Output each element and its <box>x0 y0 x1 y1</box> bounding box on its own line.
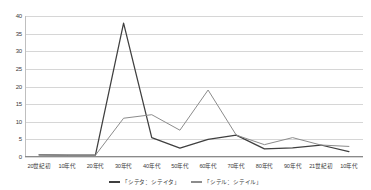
y-axis-tick-label: 0 <box>2 154 22 160</box>
legend-item[interactable]: 「シテル：シテイル」 <box>191 178 262 186</box>
x-axis-tick-label: 30年代 <box>110 160 138 172</box>
legend-label: 「シテタ：シテイタ」 <box>122 178 180 186</box>
x-axis-tick-label: 10年代 <box>53 160 81 172</box>
x-axis-tick-label: 21世紀初 <box>307 160 335 172</box>
gridline <box>25 157 363 158</box>
y-axis-tick-label: 35 <box>2 31 22 37</box>
series-line <box>39 90 349 155</box>
series-lines <box>25 16 363 157</box>
y-axis-tick-label: 20 <box>2 84 22 90</box>
x-axis-tick-label: 20世紀初 <box>25 160 53 172</box>
line-chart: 4035302520151050 20世紀初10年代20年代30年代40年代50… <box>0 0 371 190</box>
x-axis-tick-label: 40年代 <box>138 160 166 172</box>
x-axis-tick-label: 80年代 <box>250 160 278 172</box>
legend-label: 「シテル：シテイル」 <box>204 178 262 186</box>
chart-legend: 「シテタ：シテイタ」「シテル：シテイル」 <box>0 176 371 188</box>
x-axis-tick-label: 50年代 <box>166 160 194 172</box>
y-axis-tick-label: 25 <box>2 66 22 72</box>
series-line <box>39 23 349 155</box>
x-axis-tick-label: 70年代 <box>222 160 250 172</box>
plot-area <box>25 16 363 157</box>
legend-line-swatch <box>191 181 202 183</box>
x-axis-tick-label: 60年代 <box>194 160 222 172</box>
legend-line-swatch <box>109 181 120 183</box>
x-axis-tick-label: 20年代 <box>81 160 109 172</box>
y-axis-tick-label: 10 <box>2 119 22 125</box>
legend-item[interactable]: 「シテタ：シテイタ」 <box>109 178 180 186</box>
y-axis-tick-label: 40 <box>2 13 22 19</box>
x-axis-tick-label: 10年代 <box>335 160 363 172</box>
y-axis-tick-label: 5 <box>2 136 22 142</box>
y-axis-tick-label: 30 <box>2 48 22 54</box>
x-axis-tick-label: 90年代 <box>279 160 307 172</box>
x-axis-ticks: 20世紀初10年代20年代30年代40年代50年代60年代70年代80年代90年… <box>25 160 363 172</box>
y-axis-tick-label: 15 <box>2 101 22 107</box>
